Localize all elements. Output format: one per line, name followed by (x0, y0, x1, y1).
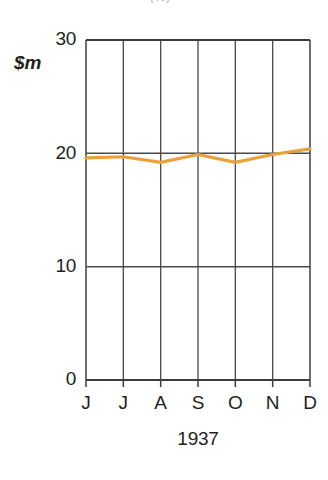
y-tick-label-20: 20 (34, 142, 76, 164)
x-tick-label-1-J: J (110, 392, 136, 414)
y-axis-unit-label: $m (14, 52, 41, 74)
x-tick-label-2-A: A (148, 392, 174, 414)
plot-svg (86, 40, 310, 380)
chart-figure: (%) $m 30 20 10 0 JJASOND 1937 (0, 0, 328, 480)
x-tick-labels: JJASOND (86, 392, 310, 418)
y-tick-label-30: 30 (34, 28, 76, 50)
x-tick-label-6-D: D (297, 392, 323, 414)
y-tick-label-10: 10 (34, 255, 76, 277)
clipped-title-text: (%) (150, 0, 230, 3)
x-tick-label-5-N: N (260, 392, 286, 414)
vertical-gridlines (86, 40, 310, 380)
x-tick-label-3-S: S (185, 392, 211, 414)
x-tick-label-4-O: O (222, 392, 248, 414)
x-tick-label-0-J: J (73, 392, 99, 414)
x-axis-title: 1937 (86, 428, 310, 450)
plot-area (86, 40, 310, 380)
x-tick-marks (86, 380, 310, 387)
y-tick-label-0: 0 (34, 368, 76, 390)
